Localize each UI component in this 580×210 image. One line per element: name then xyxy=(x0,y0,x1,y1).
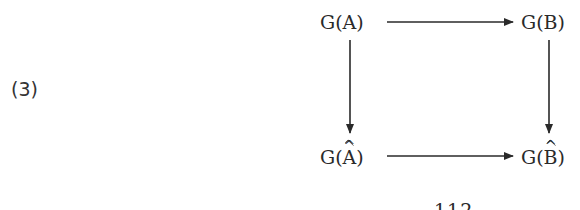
page-number: 112 xyxy=(434,199,473,210)
diagram-arrows xyxy=(0,0,580,210)
